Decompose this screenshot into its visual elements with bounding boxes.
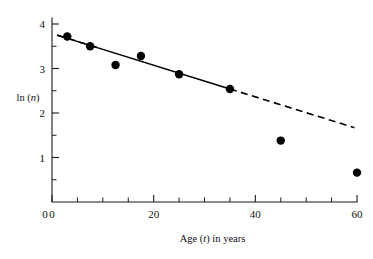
scatter-plot-svg: 0204060 12340 Age (t) in years ln (n) [0, 0, 373, 259]
chart-background [0, 0, 373, 259]
x-tick-label: 40 [250, 208, 262, 220]
origin-tick-label: 0 [42, 208, 48, 220]
x-axis-title: Age (t) in years [180, 233, 246, 245]
data-point [111, 61, 119, 69]
x-tick-label: 60 [352, 208, 364, 220]
data-point [353, 168, 361, 176]
data-point [277, 136, 285, 144]
data-point [86, 42, 94, 50]
chart-container: 0204060 12340 Age (t) in years ln (n) [0, 0, 373, 259]
y-tick-label: 2 [40, 107, 46, 119]
y-tick-label: 3 [40, 63, 46, 75]
x-tick-label: 20 [148, 208, 160, 220]
y-axis-title: ln (n) [16, 92, 40, 104]
data-point [175, 70, 183, 78]
y-tick-label: 4 [40, 18, 46, 30]
data-point [63, 32, 71, 40]
x-tick-label: 0 [49, 208, 55, 220]
data-point [137, 52, 145, 60]
data-point [226, 85, 234, 93]
y-tick-label: 1 [40, 152, 46, 164]
